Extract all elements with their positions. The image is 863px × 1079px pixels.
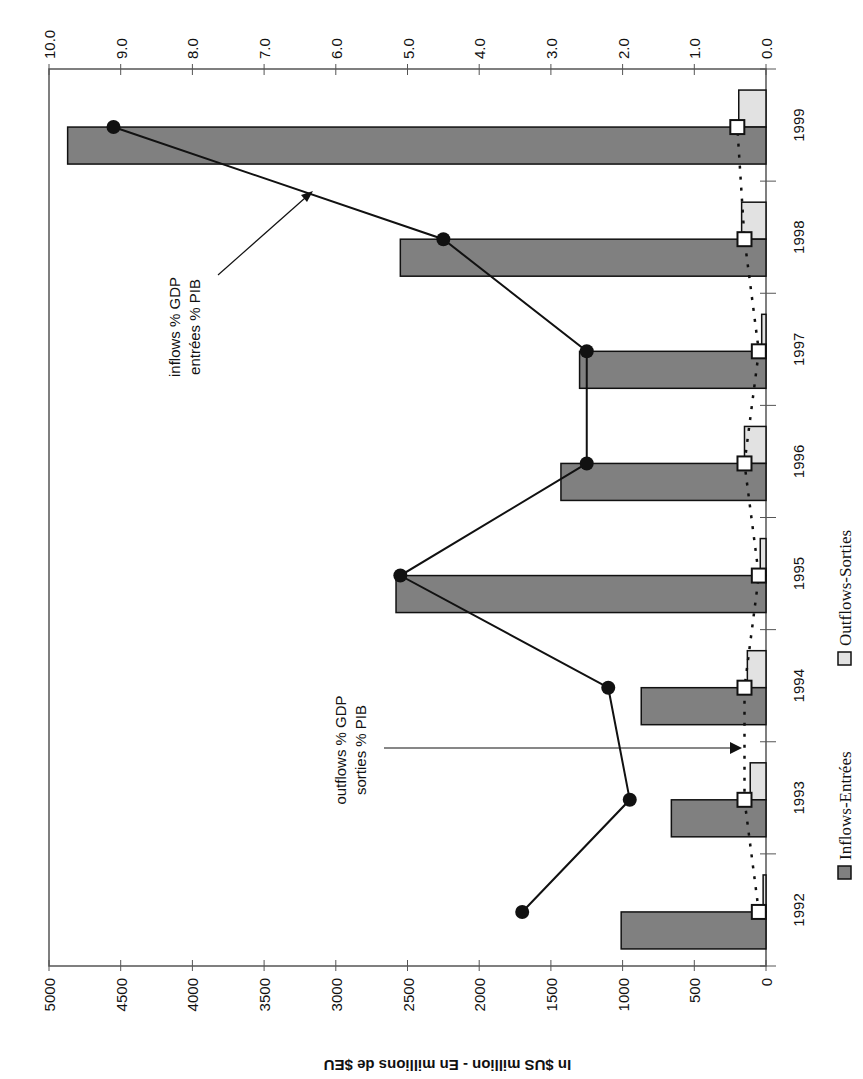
legend-label-outflows: Outflows-Sorties — [836, 530, 855, 646]
y-axis-title: In $US million - En millions de $EU — [324, 1057, 572, 1074]
outflow-bar — [750, 763, 766, 800]
category-label: 1998 — [790, 221, 807, 254]
inflow-bar — [400, 239, 766, 276]
y-tick-label: 1000 — [615, 978, 632, 1011]
category-label: 1994 — [790, 669, 807, 702]
inflow-pct-marker — [436, 232, 450, 246]
y2-tick-label: 10.0 — [41, 30, 58, 59]
inflow-bar — [561, 463, 766, 500]
category-label: 1993 — [790, 781, 807, 814]
inflow-pct-marker — [623, 793, 637, 807]
inflow-pct-marker — [580, 344, 594, 358]
y-tick-label: 1500 — [543, 978, 560, 1011]
outflow-pct-marker — [752, 905, 766, 919]
y2-tick-label: 4.0 — [471, 38, 488, 59]
y2-tick-label: 6.0 — [328, 38, 345, 59]
category-label: 1995 — [790, 557, 807, 590]
plot-border — [49, 69, 766, 966]
annotation-outflows-line2: sorties % PIB — [352, 705, 369, 795]
inflow-bar — [580, 351, 766, 388]
legend-swatch-inflows — [838, 866, 851, 879]
plot-area — [49, 69, 766, 966]
fdi-flows-chart: 0500100015002000250030003500400045005000… — [0, 0, 863, 1079]
y-tick-label: 2000 — [471, 978, 488, 1011]
legend-swatch-outflows — [838, 652, 851, 665]
y2-tick-label: 0.0 — [758, 38, 775, 59]
inflow-bar — [396, 576, 766, 613]
outflow-pct-marker — [730, 120, 744, 134]
y2-tick-label: 5.0 — [400, 38, 417, 59]
annotation-outflows-line1: outflows % GDP — [332, 695, 349, 804]
outflow-pct-marker — [737, 681, 751, 695]
y2-tick-label: 2.0 — [615, 38, 632, 59]
y2-tick-label: 9.0 — [113, 38, 130, 59]
y-tick-label: 0 — [758, 978, 775, 986]
legend: Inflows-EntréesOutflows-Sorties — [836, 530, 855, 879]
inflow-pct-marker — [393, 569, 407, 583]
outflow-pct-marker — [737, 232, 751, 246]
outflow-pct-marker — [737, 793, 751, 807]
outflow-pct-marker — [752, 344, 766, 358]
category-label: 1999 — [790, 108, 807, 141]
annotation-inflows-line1: inflows % GDP — [166, 277, 183, 377]
y-tick-label: 3000 — [328, 978, 345, 1011]
inflow-pct-marker — [515, 905, 529, 919]
outflow-pct-marker — [752, 569, 766, 583]
annotation-inflows-line2: entrées % PIB — [186, 279, 203, 375]
y2-tick-label: 1.0 — [686, 38, 703, 59]
y-tick-label: 2500 — [400, 978, 417, 1011]
category-label: 1992 — [790, 893, 807, 926]
y-tick-label: 4000 — [184, 978, 201, 1011]
y-tick-label: 3500 — [256, 978, 273, 1011]
y2-tick-label: 8.0 — [184, 38, 201, 59]
category-label: 1996 — [790, 445, 807, 478]
y2-tick-label: 3.0 — [543, 38, 560, 59]
legend-label-inflows: Inflows-Entrées — [836, 751, 855, 860]
y-tick-label: 500 — [686, 978, 703, 1003]
outflow-pct-marker — [737, 456, 751, 470]
y-tick-label: 5000 — [41, 978, 58, 1011]
category-label: 1997 — [790, 333, 807, 366]
y2-tick-label: 7.0 — [256, 38, 273, 59]
inflow-bar — [68, 127, 766, 164]
inflow-pct-marker — [601, 681, 615, 695]
inflow-bar — [621, 912, 766, 949]
inflow-pct-marker — [580, 456, 594, 470]
y-tick-label: 4500 — [113, 978, 130, 1011]
inflow-pct-marker — [107, 120, 121, 134]
